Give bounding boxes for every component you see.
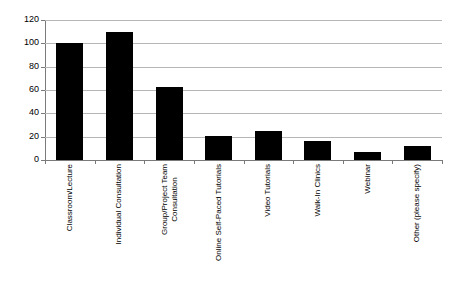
x-axis-category-labels: Classroom/LectureIndividual Consultation… xyxy=(45,164,442,304)
y-tick-mark-40 xyxy=(41,113,45,114)
y-axis-tick-labels: 020406080100120 xyxy=(0,0,39,307)
y-tick-mark-100 xyxy=(41,43,45,44)
gridline-120 xyxy=(45,20,442,21)
bar-chart: 020406080100120 Classroom/LectureIndivid… xyxy=(0,0,459,307)
x-axis-label: Webinar xyxy=(363,164,373,194)
x-axis-label: Video Tutorials xyxy=(264,164,274,217)
y-tick-mark-80 xyxy=(41,67,45,68)
gridline-60 xyxy=(45,90,442,91)
y-tick-label: 80 xyxy=(1,62,39,71)
bar xyxy=(205,136,232,161)
bar xyxy=(255,131,282,160)
y-tick-label: 40 xyxy=(1,108,39,117)
x-axis-label-line: Consultation xyxy=(169,164,179,235)
y-tick-mark-120 xyxy=(41,20,45,21)
bar xyxy=(404,146,431,160)
x-axis-label-line: Other (please specify) xyxy=(412,164,422,242)
x-tick-mark xyxy=(442,160,443,164)
x-label-slot: Webinar xyxy=(343,164,393,304)
plot-area xyxy=(45,20,442,160)
x-label-slot: Video Tutorials xyxy=(244,164,294,304)
bar xyxy=(304,141,331,160)
gridline-20 xyxy=(45,137,442,138)
x-axis-label: Classroom/Lecture xyxy=(65,164,75,231)
x-label-slot: Other (please specify) xyxy=(392,164,442,304)
x-axis-label: Other (please specify) xyxy=(412,164,422,242)
x-label-slot: Classroom/Lecture xyxy=(45,164,95,304)
gridline-80 xyxy=(45,67,442,68)
x-axis-label-line: Video Tutorials xyxy=(264,164,274,217)
x-axis-label: Individual Consultation xyxy=(115,164,125,245)
y-tick-mark-60 xyxy=(41,90,45,91)
x-axis-label-line: Webinar xyxy=(363,164,373,194)
x-label-slot: Individual Consultation xyxy=(95,164,145,304)
x-axis-label-line: Individual Consultation xyxy=(115,164,125,245)
gridline-40 xyxy=(45,113,442,114)
x-axis-label-line: Walk-In Clinics xyxy=(313,164,323,217)
x-axis-label-line: Online Self-Paced Tutorials xyxy=(214,164,224,261)
gridline-100 xyxy=(45,43,442,44)
x-axis-label-line: Group/Project Team xyxy=(160,164,170,235)
y-tick-label: 20 xyxy=(1,132,39,141)
y-tick-label: 120 xyxy=(1,15,39,24)
x-axis-label: Walk-In Clinics xyxy=(313,164,323,217)
y-tick-label: 100 xyxy=(1,38,39,47)
y-tick-label: 60 xyxy=(1,85,39,94)
bar xyxy=(106,32,133,160)
x-label-slot: Group/Project TeamConsultation xyxy=(144,164,194,304)
bar xyxy=(56,43,83,160)
bar xyxy=(156,87,183,161)
x-axis-label-line: Classroom/Lecture xyxy=(65,164,75,231)
x-label-slot: Online Self-Paced Tutorials xyxy=(194,164,244,304)
x-label-slot: Walk-In Clinics xyxy=(293,164,343,304)
y-tick-mark-0 xyxy=(41,160,45,161)
x-axis-label: Group/Project TeamConsultation xyxy=(160,164,179,235)
y-tick-mark-20 xyxy=(41,137,45,138)
y-tick-label: 0 xyxy=(1,155,39,164)
bar xyxy=(354,152,381,160)
x-axis-label: Online Self-Paced Tutorials xyxy=(214,164,224,261)
